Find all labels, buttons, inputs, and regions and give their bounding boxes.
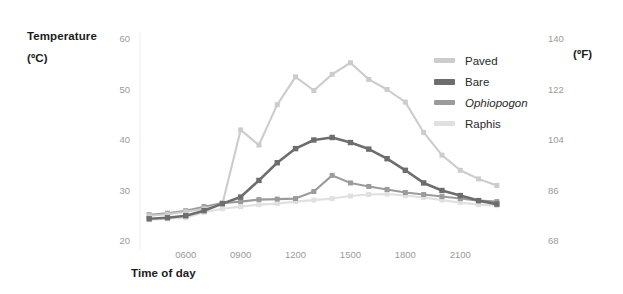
data-point-marker — [238, 194, 243, 199]
data-point-marker — [366, 77, 371, 82]
data-point-marker — [384, 156, 389, 161]
data-point-marker — [293, 74, 298, 79]
data-point-marker — [330, 72, 335, 77]
data-point-marker — [275, 102, 280, 107]
legend-item-label: Bare — [465, 76, 489, 88]
x-axis-tick-label: 1500 — [328, 249, 372, 260]
data-point-marker — [311, 198, 316, 203]
data-point-marker — [366, 146, 371, 151]
legend-swatch-icon — [434, 58, 455, 63]
y-axis-tick-label: 30 — [104, 185, 130, 196]
data-point-marker — [421, 192, 426, 197]
legend-item-label: Raphis — [465, 118, 501, 130]
data-point-marker — [311, 189, 316, 194]
data-point-marker — [293, 146, 298, 151]
legend-item-ophiopogon[interactable]: Ophiopogon — [434, 92, 584, 113]
data-point-marker — [311, 137, 316, 142]
data-point-marker — [256, 143, 261, 148]
data-point-marker — [330, 196, 335, 201]
y-axis-tick-label: 20 — [104, 235, 130, 246]
data-point-marker — [165, 215, 170, 220]
data-point-marker — [275, 197, 280, 202]
y2-axis-tick-label: 122 — [548, 84, 578, 95]
data-point-marker — [421, 130, 426, 135]
data-point-marker — [403, 100, 408, 105]
data-point-marker — [220, 201, 225, 206]
data-point-marker — [366, 184, 371, 189]
data-point-marker — [403, 168, 408, 173]
data-point-marker — [403, 190, 408, 195]
data-point-marker — [146, 216, 151, 221]
data-point-marker — [220, 206, 225, 211]
data-point-marker — [348, 180, 353, 185]
x-axis-tick-label: 1200 — [274, 249, 318, 260]
y2-axis-tick-label: 68 — [548, 235, 578, 246]
data-point-marker — [385, 192, 390, 197]
data-point-marker — [494, 201, 499, 206]
series-ophiopogon — [147, 173, 500, 217]
x-axis-tick-label: 0900 — [219, 249, 263, 260]
legend-swatch-icon — [434, 100, 455, 105]
legend-swatch-icon — [434, 79, 455, 85]
x-axis-tick-label: 0600 — [164, 249, 208, 260]
x-axis-tick-label: 2100 — [438, 249, 482, 260]
y-axis-tick-label: 50 — [104, 84, 130, 95]
legend-swatch-icon — [434, 121, 455, 126]
data-point-marker — [256, 178, 261, 183]
data-point-marker — [385, 187, 390, 192]
y-axis-tick-label: 60 — [104, 33, 130, 44]
data-point-marker — [311, 88, 316, 93]
data-point-marker — [348, 60, 353, 65]
data-point-marker — [238, 204, 243, 209]
data-point-marker — [348, 194, 353, 199]
legend-item-label: Ophiopogon — [465, 97, 528, 109]
data-point-marker — [439, 153, 444, 158]
legend-item-paved[interactable]: Paved — [434, 50, 584, 71]
legend-item-raphis[interactable]: Raphis — [434, 113, 584, 134]
x-axis-tick-label: 1800 — [383, 249, 427, 260]
data-point-marker — [476, 198, 481, 203]
data-point-marker — [275, 160, 280, 165]
y2-axis-tick-label: 104 — [548, 134, 578, 145]
data-point-marker — [366, 192, 371, 197]
legend-item-label: Paved — [465, 55, 498, 67]
data-point-marker — [458, 168, 463, 173]
data-point-marker — [439, 194, 444, 199]
y2-axis-tick-label: 140 — [548, 33, 578, 44]
data-point-marker — [238, 199, 243, 204]
data-point-marker — [256, 202, 261, 207]
data-point-marker — [476, 176, 481, 181]
y2-axis-tick-label: 86 — [548, 185, 578, 196]
data-point-marker — [238, 127, 243, 132]
data-point-marker — [183, 213, 188, 218]
chart-figure: Temperature (ºC) Time of day (ºF) PavedB… — [0, 0, 623, 294]
data-point-marker — [385, 87, 390, 92]
data-point-marker — [494, 183, 499, 188]
y-axis-tick-label: 40 — [104, 134, 130, 145]
data-point-marker — [421, 180, 426, 185]
data-point-marker — [293, 196, 298, 201]
data-point-marker — [458, 193, 463, 198]
data-point-marker — [201, 208, 206, 213]
data-point-marker — [330, 173, 335, 178]
data-point-marker — [275, 201, 280, 206]
data-point-marker — [256, 197, 261, 202]
data-point-marker — [329, 135, 334, 140]
data-point-marker — [439, 188, 444, 193]
data-point-marker — [348, 140, 353, 145]
